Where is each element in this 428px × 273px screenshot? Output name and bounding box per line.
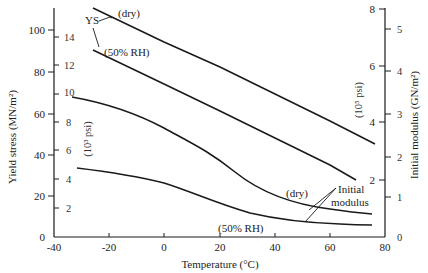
svg-text:3: 3 — [397, 109, 402, 120]
right-gn-ticks: 0 2 4 6 8 — [370, 3, 386, 186]
svg-text:4: 4 — [397, 66, 403, 77]
left-psi-ticks: 2 4 6 8 10 12 14 — [54, 32, 75, 214]
svg-text:-40: -40 — [47, 241, 62, 253]
svg-text:10: 10 — [64, 87, 75, 98]
svg-text:40: 40 — [34, 149, 46, 161]
initial-label: Initial — [338, 183, 364, 195]
svg-text:14: 14 — [64, 32, 75, 43]
modulus-label: modulus — [331, 196, 369, 208]
svg-text:80: 80 — [34, 66, 46, 78]
svg-text:0: 0 — [397, 232, 402, 243]
ys-rh-leader — [93, 28, 99, 47]
svg-text:4: 4 — [66, 174, 72, 185]
svg-text:6: 6 — [370, 60, 376, 72]
y2-psi-label: (10⁵ psi) — [353, 81, 365, 118]
svg-text:8: 8 — [66, 117, 71, 128]
svg-text:4: 4 — [370, 116, 376, 128]
svg-text:60: 60 — [325, 241, 337, 253]
left-mn-ticks: 0 20 40 60 80 100 — [29, 24, 55, 243]
rh-top-label: (50% RH) — [104, 46, 150, 59]
svg-text:2: 2 — [397, 152, 402, 163]
right-psi-ticks: 0 1 2 3 4 5 — [385, 24, 403, 243]
svg-text:60: 60 — [34, 108, 46, 120]
svg-text:1: 1 — [397, 192, 402, 203]
svg-text:2: 2 — [66, 203, 71, 214]
ys-dry-leader — [99, 17, 112, 21]
svg-text:80: 80 — [380, 241, 392, 253]
y-psi-label: (10³ psi) — [82, 121, 94, 157]
svg-text:5: 5 — [397, 24, 402, 35]
svg-text:6: 6 — [66, 145, 71, 156]
svg-text:100: 100 — [29, 24, 46, 36]
x-axis-label: Temperature (°C) — [181, 258, 259, 271]
ys-dry-curve — [93, 8, 375, 144]
svg-text:8: 8 — [370, 3, 376, 15]
svg-text:-20: -20 — [102, 241, 117, 253]
dry-modulus-label: (dry) — [286, 187, 308, 200]
svg-text:12: 12 — [64, 60, 75, 71]
svg-text:20: 20 — [215, 241, 227, 253]
rh-modulus-label: (50% RH) — [218, 222, 264, 235]
modulus-dry-curve — [72, 97, 372, 214]
svg-text:20: 20 — [34, 190, 46, 202]
chart: -40 -20 0 20 40 60 80 0 20 40 60 80 100 … — [0, 0, 428, 273]
x-ticks: -40 -20 0 20 40 60 80 — [47, 233, 391, 253]
y-axis-label: Yield stress (MN/m²) — [6, 90, 19, 184]
svg-text:0: 0 — [40, 231, 46, 243]
svg-text:40: 40 — [270, 241, 282, 253]
svg-text:0: 0 — [161, 241, 167, 253]
y2-axis-label: Initial modulus (GN/m²) — [408, 71, 421, 179]
dry-top-label: (dry) — [118, 7, 140, 20]
svg-text:2: 2 — [370, 174, 376, 186]
ys-label: YS — [85, 14, 99, 26]
